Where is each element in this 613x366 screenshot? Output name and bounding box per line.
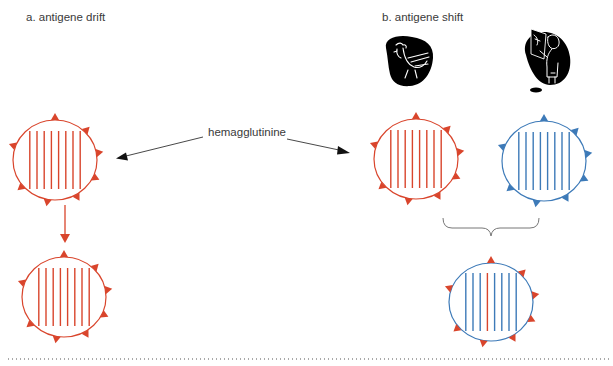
hemagglutinin-spike <box>73 193 80 201</box>
diagram-canvas <box>0 0 613 366</box>
drift-arrow <box>60 205 70 243</box>
hemagglutinin-spike <box>60 250 68 257</box>
virus-drift-original <box>9 113 103 206</box>
hemagglutinin-spike <box>82 330 89 338</box>
hemagglutinin-spike <box>412 112 420 119</box>
hemagglutinin-spike <box>487 256 495 263</box>
hemagglutinine-arrow-left <box>116 137 203 161</box>
hemagglutinin-spike <box>434 192 441 200</box>
virus-shift-avian <box>370 112 464 205</box>
hemagglutinin-spike <box>562 194 569 202</box>
virus-shift-reassortant <box>445 256 539 347</box>
hemagglutinin-spike <box>540 114 548 121</box>
hemagglutinin-spike <box>51 113 59 120</box>
hemagglutinine-arrow-right <box>287 139 350 155</box>
hemagglutinin-spike <box>509 334 516 342</box>
chicken-icon <box>386 36 433 86</box>
human-scientist-icon <box>525 29 570 93</box>
reassortment-brace <box>443 218 539 236</box>
virus-drift-mutated <box>18 250 112 343</box>
virus-shift-human <box>498 114 592 207</box>
